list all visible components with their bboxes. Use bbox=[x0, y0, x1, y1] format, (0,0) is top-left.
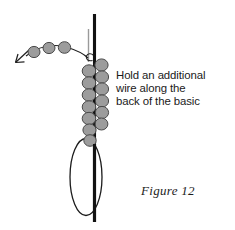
instruction-line-2: wire along the bbox=[116, 82, 234, 95]
instruction-line-3: back of the basic bbox=[116, 95, 234, 108]
figure-caption: Figure 12 bbox=[141, 183, 195, 199]
wire-loop bbox=[70, 139, 102, 216]
beadwork-diagram bbox=[0, 0, 235, 230]
instruction-line-1: Hold an additional bbox=[116, 69, 234, 82]
bead-column-right bbox=[95, 59, 109, 130]
strand-beads bbox=[28, 42, 71, 58]
direction-arrow bbox=[16, 51, 29, 63]
figure-page: Hold an additional wire along the back o… bbox=[0, 0, 235, 230]
instruction-text: Hold an additional wire along the back o… bbox=[116, 69, 234, 109]
